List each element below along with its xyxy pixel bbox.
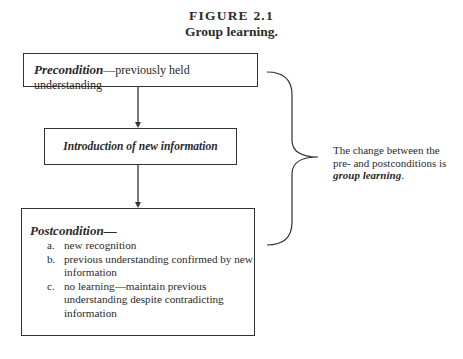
curly-brace-icon — [267, 72, 318, 245]
group-learning-annotation: The change between the pre- and postcond… — [333, 144, 458, 182]
arrow-intro-to-post — [135, 165, 141, 208]
annotation-suffix: . — [401, 169, 404, 181]
annotation-emphasis: group learning — [333, 169, 401, 181]
annotation-prefix: The change between the pre- and postcond… — [333, 144, 446, 169]
arrow-pre-to-intro — [135, 87, 141, 128]
